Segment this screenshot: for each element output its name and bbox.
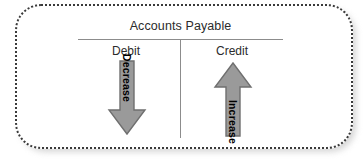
column-label-debit: Debit (76, 44, 176, 58)
credit-arrow-group: Increase (210, 60, 256, 138)
account-title: Accounts Payable (78, 19, 283, 33)
debit-arrow-group: Decrease (104, 60, 150, 138)
column-label-credit: Credit (182, 44, 282, 58)
up-arrow-icon (210, 60, 256, 138)
t-account-vertical-divider (180, 39, 181, 138)
diagram-canvas: Accounts Payable Debit Credit Decrease I… (0, 0, 363, 161)
down-arrow-icon (104, 60, 150, 138)
t-account-diagram: Accounts Payable Debit Credit Decrease I… (0, 0, 363, 161)
